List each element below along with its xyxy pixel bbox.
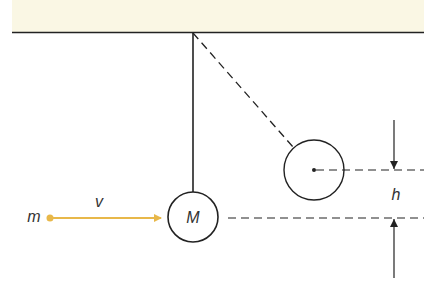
ceiling xyxy=(12,0,424,32)
velocity-label: v xyxy=(95,193,104,210)
displaced-bob-center xyxy=(312,168,316,172)
pendulum-mass-label: M xyxy=(186,209,200,226)
projectile-mass-label: m xyxy=(27,208,40,225)
ballistic-pendulum-diagram: M h m v xyxy=(0,0,442,288)
height-label: h xyxy=(392,186,401,203)
displaced-string xyxy=(193,33,293,147)
